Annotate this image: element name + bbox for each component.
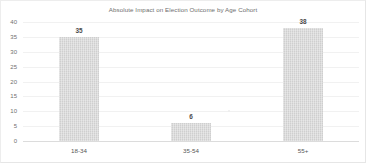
bar-value-label: 38: [283, 18, 323, 26]
bar-value-label: 6: [171, 113, 211, 121]
y-axis-tick-label: 40: [3, 19, 17, 25]
bar-group: 6: [171, 22, 211, 141]
y-axis-tick-label: 10: [3, 108, 17, 114]
y-axis-tick-label: 30: [3, 49, 17, 55]
chart-container: Absolute Impact on Election Outcome by A…: [0, 0, 366, 163]
plot-area: 35638: [23, 22, 359, 141]
gridline: [23, 141, 359, 142]
y-axis-tick-label: 20: [3, 79, 17, 85]
x-axis-tick-label: 35-54: [135, 146, 247, 155]
bar-value-label: 35: [59, 27, 99, 35]
bar[interactable]: [171, 123, 211, 141]
bar-group: 35: [59, 22, 99, 141]
stray-speck: [228, 110, 230, 112]
x-axis-tick-label: 18-34: [23, 146, 135, 155]
bar-group: 38: [283, 22, 323, 141]
bar[interactable]: [59, 37, 99, 141]
x-axis-tick-label: 55+: [247, 146, 359, 155]
x-axis-tick-labels: 18-3435-5455+: [23, 146, 359, 160]
y-axis-tick-label: 35: [3, 34, 17, 40]
y-axis-tick-label: 5: [3, 123, 17, 129]
bar[interactable]: [283, 28, 323, 141]
chart-title: Absolute Impact on Election Outcome by A…: [1, 5, 365, 14]
y-axis-tick-label: 25: [3, 64, 17, 70]
y-axis-tick-label: 0: [3, 138, 17, 144]
y-axis-tick-label: 15: [3, 93, 17, 99]
